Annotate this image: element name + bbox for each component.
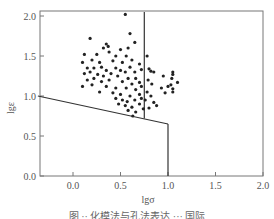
data-point <box>138 93 141 96</box>
data-point <box>114 97 117 100</box>
data-point <box>138 102 141 105</box>
data-points <box>81 13 179 118</box>
data-point <box>140 68 143 71</box>
data-point <box>114 54 117 57</box>
data-point <box>152 70 155 73</box>
x-tick-label: 2.0 <box>257 180 270 191</box>
y-axis-label: lgε <box>5 102 16 114</box>
boundary-lines <box>38 12 168 176</box>
data-point <box>98 61 101 64</box>
data-point <box>170 77 173 80</box>
data-point <box>171 70 174 73</box>
data-point <box>126 100 129 103</box>
data-point <box>150 82 153 85</box>
data-point <box>133 41 136 44</box>
data-point <box>127 109 130 112</box>
data-point <box>130 82 133 85</box>
data-point <box>147 78 150 81</box>
plot-frame <box>40 11 263 176</box>
data-point <box>138 81 141 84</box>
data-point <box>128 32 131 35</box>
data-point <box>140 97 143 100</box>
data-point <box>96 73 99 76</box>
data-point <box>128 94 131 97</box>
scatter-chart: 0.00.51.01.52.0 0.00.51.01.52.0 lgσ lgε <box>0 0 274 219</box>
data-point <box>90 83 93 86</box>
figure-caption: 图 ·· 化模法与孔法表达 ··· 国际 <box>0 208 274 219</box>
data-point <box>89 37 92 40</box>
data-point <box>114 66 117 69</box>
data-point <box>176 81 179 84</box>
data-point <box>100 66 103 69</box>
data-point <box>152 101 155 104</box>
y-tick-label: 1.0 <box>24 91 37 102</box>
data-point <box>121 98 124 101</box>
data-point <box>121 61 124 64</box>
data-point <box>140 85 143 88</box>
data-point <box>111 59 114 62</box>
data-point <box>86 78 89 81</box>
data-point <box>109 72 112 75</box>
data-point <box>155 104 158 107</box>
data-point <box>149 94 152 97</box>
data-point <box>105 85 108 88</box>
data-point <box>105 69 108 72</box>
data-point <box>127 77 130 80</box>
sloped-boundary-line <box>38 96 168 124</box>
data-point <box>146 54 149 57</box>
y-tick-label: 1.5 <box>24 51 37 62</box>
data-point <box>90 58 93 61</box>
data-point <box>124 13 127 16</box>
data-point <box>130 58 133 61</box>
data-point <box>134 77 137 80</box>
data-point <box>160 86 163 89</box>
x-tick-label: 0.5 <box>114 180 127 191</box>
data-point <box>83 72 86 75</box>
data-point <box>102 46 105 49</box>
data-point <box>149 70 152 73</box>
data-point <box>166 85 169 88</box>
data-point <box>81 85 84 88</box>
data-point <box>133 98 136 101</box>
data-point <box>169 83 172 86</box>
data-point <box>89 70 92 73</box>
data-point <box>119 48 122 51</box>
x-tick-label: 1.0 <box>162 180 175 191</box>
data-point <box>138 62 141 65</box>
data-point <box>144 98 147 101</box>
data-point <box>100 80 103 83</box>
data-point <box>117 102 120 105</box>
y-tick-label: 0.0 <box>24 171 37 182</box>
data-point <box>164 91 167 94</box>
data-point <box>98 90 101 93</box>
data-point <box>162 74 165 77</box>
data-point <box>134 88 137 91</box>
data-point <box>92 77 95 80</box>
data-point <box>128 66 131 69</box>
data-point <box>108 50 111 53</box>
data-point <box>83 53 86 56</box>
data-point <box>95 53 98 56</box>
data-point <box>119 93 122 96</box>
data-point <box>121 80 124 83</box>
x-tick-label: 0.0 <box>67 180 80 191</box>
data-point <box>108 78 111 81</box>
data-point <box>131 114 134 117</box>
y-tick-label: 0.5 <box>24 131 37 142</box>
data-point <box>116 74 119 77</box>
y-tick-label: 2.0 <box>24 11 37 22</box>
data-point <box>92 66 95 69</box>
data-point <box>134 110 137 113</box>
data-point <box>130 106 133 109</box>
data-point <box>125 86 128 89</box>
data-point <box>124 70 127 73</box>
data-point <box>119 69 122 72</box>
y-axis-ticks: 0.00.51.01.52.0 <box>24 11 45 182</box>
x-axis-label: lgσ <box>141 194 155 205</box>
data-point <box>171 87 174 90</box>
data-point <box>146 90 149 93</box>
x-tick-label: 1.5 <box>209 180 222 191</box>
data-point <box>124 104 127 107</box>
data-point <box>102 74 105 77</box>
data-point <box>127 46 130 49</box>
